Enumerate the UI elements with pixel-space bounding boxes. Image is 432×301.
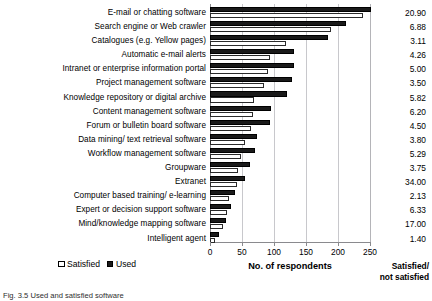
bar-cell xyxy=(210,232,370,246)
bar-used xyxy=(210,162,250,167)
bar-satisfied xyxy=(210,182,237,187)
chart-row: Project management software3.50 xyxy=(0,76,432,90)
category-label: Search engine or Web crawler xyxy=(0,20,210,34)
ratio-value: 6.88 xyxy=(370,20,432,34)
bar-satisfied xyxy=(210,83,264,88)
bar-pair xyxy=(210,204,370,217)
x-tick-label: 50 xyxy=(237,247,246,257)
bar-cell xyxy=(210,105,370,119)
bar-satisfied xyxy=(210,112,253,117)
chart-row: E-mail or chatting software20.90 xyxy=(0,6,432,20)
category-label: Data mining/ text retrieval software xyxy=(0,133,210,147)
bar-used xyxy=(210,49,294,54)
chart-row: Expert or decision support software6.33 xyxy=(0,203,432,217)
chart-row: Computer based training/ e-learning2.13 xyxy=(0,189,432,203)
chart-row: Data mining/ text retrieval software3.80 xyxy=(0,133,432,147)
bar-cell xyxy=(210,175,370,189)
bar-satisfied xyxy=(210,126,251,131)
bar-satisfied xyxy=(210,55,270,60)
bar-used xyxy=(210,204,231,209)
chart-row: Intranet or enterprise information porta… xyxy=(0,62,432,76)
category-label: Intelligent agent xyxy=(0,232,210,246)
category-label: Knowledge repository or digital archive xyxy=(0,91,210,105)
figure-caption: Fig. 3.5 Used and satisfied software xyxy=(3,291,124,301)
bar-pair xyxy=(210,119,370,132)
ratio-value: 6.33 xyxy=(370,203,432,217)
legend-item-used: Used xyxy=(107,259,136,269)
ratio-value: 3.80 xyxy=(370,133,432,147)
bar-pair xyxy=(210,133,370,146)
ratio-value: 5.29 xyxy=(370,147,432,161)
bar-pair xyxy=(210,35,370,48)
bar-satisfied xyxy=(210,41,286,46)
x-tick xyxy=(242,242,243,246)
ratio-value: 3.50 xyxy=(370,76,432,90)
bar-satisfied xyxy=(210,154,241,159)
bar-pair xyxy=(210,148,370,161)
bar-cell xyxy=(210,34,370,48)
bar-satisfied xyxy=(210,13,363,18)
ratio-value: 1.40 xyxy=(370,232,432,246)
bar-cell xyxy=(210,147,370,161)
bar-used xyxy=(210,134,257,139)
ratio-value: 4.50 xyxy=(370,119,432,133)
chart-row: Knowledge repository or digital archive5… xyxy=(0,91,432,105)
category-label: Expert or decision support software xyxy=(0,203,210,217)
bar-pair xyxy=(210,218,370,231)
bar-satisfied xyxy=(210,168,238,173)
bar-used xyxy=(210,218,226,223)
bar-pair xyxy=(210,77,370,90)
bar-satisfied xyxy=(210,140,245,145)
bar-cell xyxy=(210,48,370,62)
bar-used xyxy=(210,63,294,68)
x-tick-label: 100 xyxy=(267,247,281,257)
bar-rows: E-mail or chatting software20.90Search e… xyxy=(0,6,432,246)
category-label: Mind/knowledge mapping software xyxy=(0,217,210,231)
bar-cell xyxy=(210,76,370,90)
chart-legend: Satisfied Used xyxy=(58,259,136,269)
bar-cell xyxy=(210,119,370,133)
bar-cell xyxy=(210,20,370,34)
ratio-value: 5.82 xyxy=(370,91,432,105)
bar-cell xyxy=(210,161,370,175)
ratio-value: 2.13 xyxy=(370,189,432,203)
bar-used xyxy=(210,35,328,40)
x-tick xyxy=(274,242,275,246)
chart-row: Groupware3.75 xyxy=(0,161,432,175)
bar-cell xyxy=(210,189,370,203)
bar-used xyxy=(210,148,255,153)
x-tick xyxy=(306,242,307,246)
bar-used xyxy=(210,176,245,181)
bar-pair xyxy=(210,190,370,203)
bar-cell xyxy=(210,203,370,217)
bar-satisfied xyxy=(210,224,223,229)
chart-row: Catalogues (e.g. Yellow pages)3.11 xyxy=(0,34,432,48)
category-label: Computer based training/ e-learning xyxy=(0,189,210,203)
bar-used xyxy=(210,21,346,26)
bar-satisfied xyxy=(210,27,331,32)
x-tick-label: 250 xyxy=(363,247,377,257)
bar-cell xyxy=(210,217,370,231)
bar-cell xyxy=(210,133,370,147)
ratio-value: 17.00 xyxy=(370,217,432,231)
chart-plot-area: E-mail or chatting software20.90Search e… xyxy=(0,0,432,248)
x-tick-label: 0 xyxy=(208,247,213,257)
x-tick xyxy=(338,242,339,246)
ratio-value: 20.90 xyxy=(370,6,432,20)
bar-pair xyxy=(210,49,370,62)
open-square-icon xyxy=(58,261,65,268)
bar-satisfied xyxy=(210,196,229,201)
bar-cell xyxy=(210,91,370,105)
legend-label-satisfied: Satisfied xyxy=(67,259,100,269)
x-axis-title: No. of respondents xyxy=(210,261,370,271)
category-label: Catalogues (e.g. Yellow pages) xyxy=(0,34,210,48)
category-label: Automatic e-mail alerts xyxy=(0,48,210,62)
ratio-value: 4.26 xyxy=(370,48,432,62)
bar-pair xyxy=(210,162,370,175)
category-label: Workflow management software xyxy=(0,147,210,161)
ratio-value: 6.20 xyxy=(370,105,432,119)
chart-row: Content management software6.20 xyxy=(0,105,432,119)
category-label: Intranet or enterprise information porta… xyxy=(0,62,210,76)
chart-row: Forum or bulletin board software4.50 xyxy=(0,119,432,133)
ratio-value: 3.11 xyxy=(370,34,432,48)
